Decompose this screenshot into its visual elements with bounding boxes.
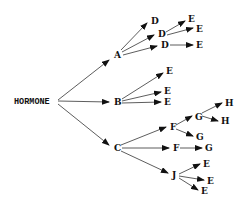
arrow-edge (202, 103, 222, 113)
node-label-f1-g2: G (196, 132, 204, 142)
node-label-a-d3: D (161, 40, 169, 50)
node-label-d2-e1: E (188, 14, 195, 24)
arrow-edge (176, 129, 193, 136)
node-label-b-e1: E (166, 66, 173, 76)
arrow-edge (179, 176, 204, 180)
node-label-d3-e: E (196, 40, 203, 50)
node-label-b-e3: E (164, 97, 171, 107)
arrow-edge (121, 127, 166, 145)
node-label-f2-g: G (205, 143, 213, 153)
node-label-c: C (114, 143, 121, 153)
arrow-edge (202, 116, 218, 121)
arrow-edge (58, 60, 109, 100)
arrow-edge (179, 164, 200, 174)
node-label-f1-g1: G (195, 112, 203, 122)
node-label-a: A (113, 50, 122, 60)
arrow-edge (58, 104, 109, 145)
node-label-b-e2: E (164, 86, 171, 96)
node-label-j-e3: E (201, 186, 208, 196)
node-label-b: B (114, 97, 122, 107)
node-label-c-f2: F (173, 143, 180, 153)
arrow-edge (122, 73, 163, 99)
arrow-edge (122, 102, 161, 103)
arrow-edge (176, 116, 192, 125)
arrow-edge (58, 101, 109, 102)
node-label-g1-h2: H (221, 116, 230, 126)
arrow-edge (179, 178, 198, 190)
node-label-a-d2: D (158, 29, 166, 39)
node-group: HORMONEABCDDDEEEEEEFGHHGFGJEEE (14, 14, 234, 196)
node-label-c-f1: F (170, 122, 177, 132)
node-label-a-d1: D (151, 16, 159, 26)
node-label-j-e1: E (203, 159, 210, 169)
arrow-edge (123, 46, 157, 55)
node-label-hormone: HORMONE (14, 97, 50, 107)
hormone-tree-diagram: HORMONEABCDDDEEEEEEFGHHGFGJEEE (0, 0, 240, 210)
arrow-edge (166, 21, 185, 32)
node-label-j-e2: E (207, 176, 214, 186)
node-label-g1-h1: H (225, 98, 234, 108)
arrow-edge (121, 151, 168, 173)
node-label-c-j: J (171, 170, 176, 180)
node-label-d2-e2: E (196, 24, 203, 34)
arrow-edge (122, 92, 161, 101)
